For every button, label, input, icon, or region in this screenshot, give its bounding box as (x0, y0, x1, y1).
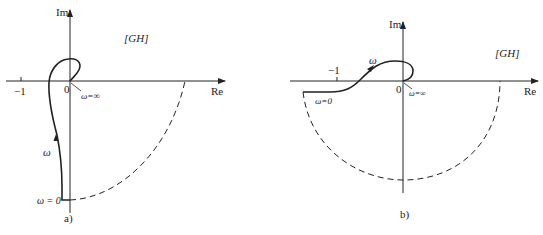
omega-label-a: ω (43, 146, 51, 158)
region-label-b: [GH] (495, 47, 519, 59)
minus-one-label-b: −1 (328, 64, 340, 76)
im-label-a: Im (56, 6, 69, 18)
figure-b: Im Re [GH] 0 −1 ω ω=0 ω=∞ b) (290, 18, 538, 221)
re-label-b: Re (524, 85, 536, 97)
caption-a: a) (64, 212, 73, 225)
omega-zero-label-a: ω = 0 (37, 195, 61, 206)
re-label-a: Re (211, 85, 223, 97)
nyquist-curve-a (49, 59, 80, 200)
minus-one-label-a: −1 (14, 85, 26, 97)
omega-inf-pointer-a (71, 83, 81, 91)
figure-a: Im Re [GH] 0 −1 ω ω = 0 ω=∞ a) (6, 6, 225, 225)
nyquist-diagrams: Im Re [GH] 0 −1 ω ω = 0 ω=∞ a) Im Re [GH… (0, 0, 543, 235)
caption-b: b) (400, 208, 410, 221)
origin-label-b: 0 (396, 83, 402, 95)
omega-label-b: ω (369, 54, 377, 66)
omega-zero-label-b: ω=0 (315, 96, 332, 106)
dashed-arc-b (303, 81, 500, 180)
origin-label-a: 0 (64, 83, 70, 95)
omega-inf-label-b: ω=∞ (409, 89, 426, 98)
region-label-a: [GH] (124, 32, 148, 44)
im-label-b: Im (389, 18, 402, 30)
omega-inf-label-a: ω=∞ (81, 91, 100, 101)
